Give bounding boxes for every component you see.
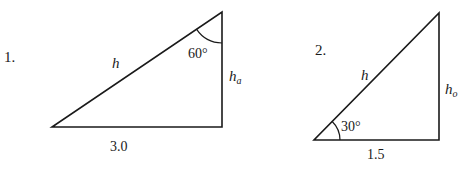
triangle-1-angle-label: 60° bbox=[188, 46, 208, 61]
triangle-2-vertical-label: ho bbox=[445, 81, 458, 99]
triangle-1-vertical-label: ha bbox=[229, 68, 242, 86]
triangle-1-hypotenuse-label: h bbox=[112, 55, 120, 71]
triangle-2-base-label: 1.5 bbox=[367, 147, 385, 162]
triangle-2-angle-label: 30° bbox=[341, 119, 361, 134]
triangle-2: 2. h 30° ho 1.5 bbox=[314, 13, 458, 162]
triangle-2-hypotenuse-label: h bbox=[361, 67, 369, 83]
triangle-2-number: 2. bbox=[315, 42, 326, 58]
triangle-2-angle-arc bbox=[332, 122, 340, 141]
triangle-1-number: 1. bbox=[4, 49, 15, 65]
triangle-1-base-label: 3.0 bbox=[110, 139, 128, 154]
triangle-2-shape bbox=[314, 13, 439, 140]
triangle-1-angle-arc bbox=[197, 29, 223, 43]
triangles-diagram: 1. h 60° ha 3.0 2. h 30° ho 1.5 bbox=[0, 0, 474, 169]
triangle-1: 1. h 60° ha 3.0 bbox=[4, 12, 242, 154]
